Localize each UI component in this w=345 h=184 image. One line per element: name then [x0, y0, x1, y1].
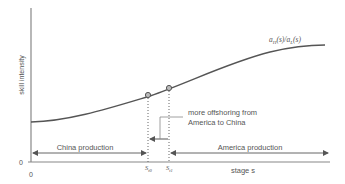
skill-intensity-curve [31, 45, 325, 122]
x-axis-label: stage s [231, 166, 255, 175]
marker1-label: St1 [166, 164, 173, 173]
annotation-line1: more offshoring from [188, 108, 257, 117]
annotation-line2: America to China [188, 118, 246, 127]
china-production-label: China production [57, 143, 114, 152]
curve-label: aH(s)/aL(s) [269, 35, 301, 45]
marker1-point [166, 85, 171, 90]
origin-x-label: 0 [29, 171, 33, 178]
marker0-label: St0 [145, 164, 153, 173]
marker0-point [145, 92, 150, 97]
annotation-leader [160, 117, 183, 139]
y-axis-label: skill intensity [18, 55, 26, 95]
diagram-canvas: skill intensity 0 0 aH(s)/aL(s) more off… [0, 0, 345, 184]
origin-y-label: 0 [19, 159, 23, 166]
america-production-label: America production [218, 143, 283, 152]
